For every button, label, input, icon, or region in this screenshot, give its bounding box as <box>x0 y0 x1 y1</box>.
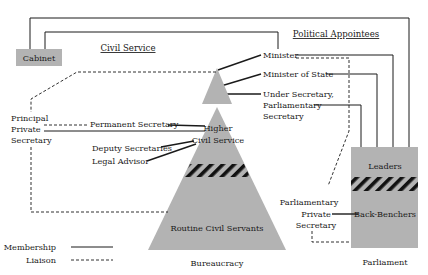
higher-civil-service-label-2: Civil Service <box>192 135 245 145</box>
under-secretary-label-3: Secretary <box>263 111 304 121</box>
deputy-secretaries-label: Deputy Secretaries <box>92 143 172 153</box>
routine-civil-servants-label: Routine Civil Servants <box>171 223 264 233</box>
cabinet-minister-link <box>45 32 278 50</box>
legal-advisor-label: Legal Advisor <box>92 156 149 166</box>
legend-membership-label: Membership <box>4 242 56 252</box>
pyramid-boundary-hatch <box>184 164 250 177</box>
permanent-secretary-link <box>168 125 205 126</box>
parliamentary-pps-label-2: Private <box>301 209 331 219</box>
higher-civil-service-label-1: Higher <box>203 123 232 133</box>
parliamentary-pps-label-1: Parliamentary <box>280 197 339 207</box>
political-appointees-title: Political Appointees <box>293 29 379 39</box>
under-secretary-leaders-link <box>314 105 361 150</box>
parliamentary-pps-label-3: Secretary <box>296 220 337 230</box>
principal-private-secretary-label-2: Private <box>11 124 41 134</box>
legend-liaison-label: Liaison <box>26 255 57 265</box>
under-secretary-label-1: Under Secretary, <box>263 89 334 99</box>
minister-label: Minister <box>263 50 298 60</box>
parliament-boundary-hatch <box>351 177 418 191</box>
principal-private-secretary-label-3: Secretary <box>11 135 52 145</box>
minister-of-state-leaders-link <box>326 74 377 150</box>
minister-pps-dashed-liaison <box>31 72 216 112</box>
back-benchers-label: Back-Benchers <box>354 209 416 219</box>
permanent-secretary-label: Permanent Secretary <box>90 119 179 129</box>
minister-civil-link <box>218 55 261 70</box>
bureaucracy-label: Bureaucracy <box>191 258 244 268</box>
pps-parliament-dashed-liaison <box>312 231 351 242</box>
minister-of-state-civil-link <box>221 74 261 86</box>
cabinet-label: Cabinet <box>23 53 56 63</box>
leaders-label: Leaders <box>368 161 401 171</box>
parliament-label: Parliament <box>362 257 408 267</box>
minister-of-state-label: Minister of State <box>263 69 333 79</box>
civil-service-diagram: Cabinet Civil Service Political Appointe… <box>0 0 428 275</box>
civil-service-title: Civil Service <box>101 43 156 53</box>
under-secretary-label-2: Parliamentary <box>263 100 322 110</box>
political-apex-triangle <box>202 68 232 104</box>
principal-private-secretary-label-1: Principal <box>11 113 49 123</box>
